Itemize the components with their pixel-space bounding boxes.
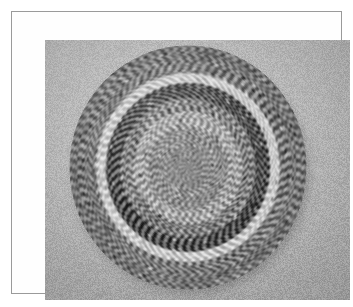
plate-matte xyxy=(12,12,341,293)
photograph xyxy=(45,40,350,300)
plate-caption xyxy=(0,0,1,1)
photographic-plate xyxy=(0,0,353,307)
braided-rug xyxy=(69,45,307,290)
rug-braid-texture xyxy=(69,45,307,290)
